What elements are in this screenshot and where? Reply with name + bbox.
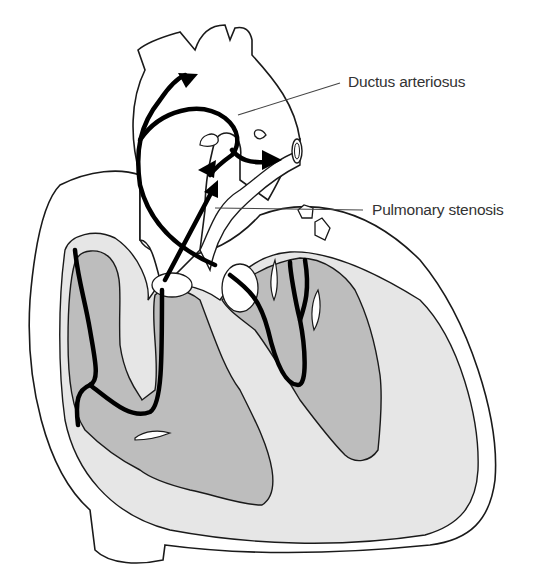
label-ductus-arteriosus: Ductus arteriosus: [348, 73, 465, 91]
pulmonary-branch-lumen: [295, 143, 300, 159]
heart-diagram: Ductus arteriosus Pulmonary stenosis: [0, 0, 537, 575]
label-pulmonary-stenosis: Pulmonary stenosis: [372, 201, 504, 219]
mitral-valve: [222, 264, 258, 312]
pulmonary-valve: [152, 273, 192, 297]
